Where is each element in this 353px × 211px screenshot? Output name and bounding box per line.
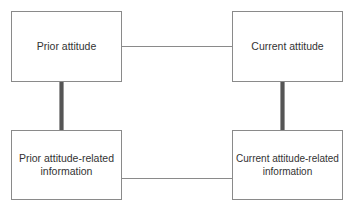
node-label: Current attitude-related information: [234, 152, 342, 178]
edge-prior-info-to-current-info: [121, 178, 232, 179]
node-prior-attitude: Prior attitude: [11, 11, 122, 82]
node-prior-attitude-related-information: Prior attitude-related information: [11, 130, 122, 200]
node-current-attitude-related-information: Current attitude-related information: [232, 130, 343, 200]
edge-prior-attitude-to-prior-info: [59, 81, 64, 130]
node-label: Current attitude: [251, 40, 323, 53]
node-current-attitude: Current attitude: [232, 11, 343, 82]
node-label: Prior attitude-related information: [14, 152, 120, 178]
edge-prior-to-current-attitude: [121, 46, 232, 47]
edge-current-attitude-to-current-info: [280, 81, 285, 130]
node-label: Prior attitude: [37, 40, 97, 53]
